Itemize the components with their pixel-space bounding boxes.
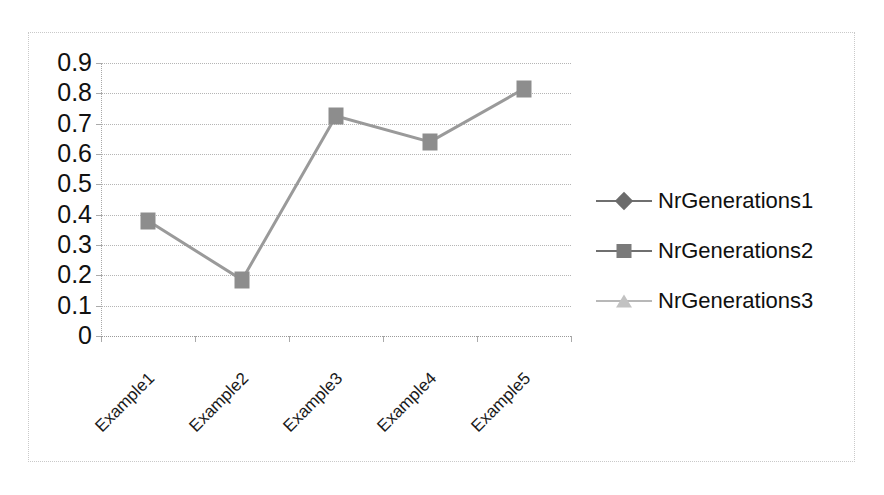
legend-label: NrGenerations1 (658, 189, 813, 213)
legend-item[interactable]: NrGenerations2 (596, 226, 846, 276)
y-axis-tick-label: 0.6 (28, 141, 92, 166)
y-axis-line (101, 63, 102, 337)
y-axis-labels: 0.90.80.70.60.50.40.30.20.10 (24, 0, 92, 430)
legend-label: NrGenerations2 (658, 239, 813, 263)
legend-label: NrGenerations3 (658, 289, 813, 313)
data-point-marker (141, 212, 156, 229)
y-axis-tick-label: 0.7 (28, 111, 92, 136)
chart-legend: NrGenerations1NrGenerations2NrGeneration… (596, 176, 846, 326)
diamond-icon (615, 192, 633, 210)
legend-item[interactable]: NrGenerations3 (596, 276, 846, 326)
y-axis-tick-label: 0.5 (28, 171, 92, 196)
y-axis-tick-label: 0.1 (28, 293, 92, 318)
legend-key (596, 191, 652, 211)
y-axis-tick-label: 0.8 (28, 80, 92, 105)
x-axis-tick (571, 336, 572, 342)
y-axis-tick-label: 0.9 (28, 50, 92, 75)
y-axis-tick-label: 0.3 (28, 232, 92, 257)
gridline (101, 306, 571, 307)
legend-key (596, 241, 652, 261)
triangle-icon (616, 295, 632, 308)
gridline (101, 63, 571, 64)
gridline (101, 93, 571, 94)
y-axis-tick-label: 0.4 (28, 202, 92, 227)
gridline (101, 245, 571, 246)
legend-item[interactable]: NrGenerations1 (596, 176, 846, 226)
gridline (101, 154, 571, 155)
gridline (101, 215, 571, 216)
data-point-marker (329, 108, 344, 125)
y-axis-tick-label: 0 (28, 323, 92, 348)
data-point-marker (423, 133, 438, 150)
chart-container: 0.90.80.70.60.50.40.30.20.10 Example1Exa… (0, 0, 884, 495)
data-point-marker (235, 271, 250, 288)
x-axis-line (101, 336, 571, 337)
data-point-marker (517, 80, 532, 97)
gridline (101, 184, 571, 185)
y-axis-tick-label: 0.2 (28, 262, 92, 287)
square-icon (617, 244, 632, 258)
legend-key (596, 291, 652, 311)
gridline (101, 275, 571, 276)
